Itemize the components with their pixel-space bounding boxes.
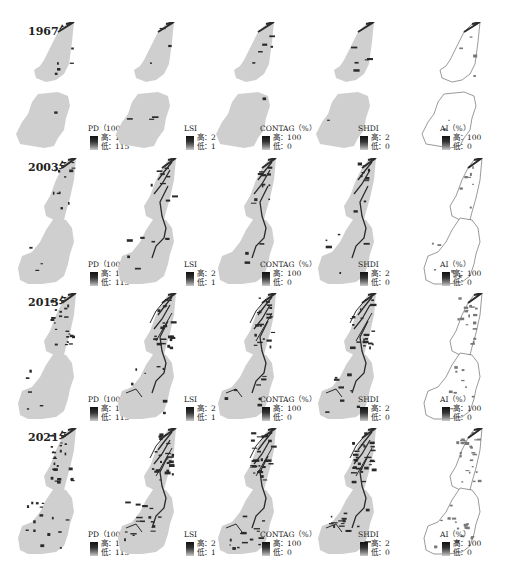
map-panel-pd: PD（100公顷） 高：1040 低：115	[6, 293, 106, 425]
color-ramp-icon	[360, 136, 368, 150]
color-ramp-icon	[360, 272, 368, 286]
year-row: 2021年 PD（100公顷） 高：1040 低：115	[0, 428, 513, 560]
color-ramp-icon	[90, 136, 98, 150]
map-panel-ai: AI（%） 高：100 低：0	[412, 293, 512, 425]
legend-high-value: 高：2	[371, 269, 390, 278]
year-row: 1967年 PD（100公顷） 高：1040 低：115	[0, 22, 513, 154]
color-ramp-icon	[90, 407, 98, 421]
legend-low-value: 低：0	[371, 278, 390, 287]
year-row: 2003年 PD（100公顷） 高：1040 低：115	[0, 158, 513, 290]
map-panel-contag: CONTAG（%） 高：100 低：0	[206, 22, 306, 154]
color-ramp-icon	[360, 407, 368, 421]
color-ramp-icon	[90, 272, 98, 286]
color-ramp-icon	[262, 407, 270, 421]
color-ramp-icon	[186, 407, 194, 421]
map-panel-lsi: LSI 高：2 低：1	[106, 158, 206, 290]
legend-ai: AI（%） 高：100 低：0	[440, 260, 481, 287]
map-panel-pd: PD（100公顷） 高：1040 低：115	[6, 22, 106, 154]
legend-shdi: SHDI 高：2 低：0	[358, 124, 390, 151]
legend-shdi: SHDI 高：2 低：0	[358, 260, 390, 287]
color-ramp-icon	[262, 136, 270, 150]
color-ramp-icon	[186, 272, 194, 286]
legend-shdi: SHDI 高：2 低：0	[358, 530, 390, 557]
map-panel-ai: AI（%） 高：100 低：0	[412, 428, 512, 560]
map-panel-lsi: LSI 高：2 低：1	[106, 293, 206, 425]
color-ramp-icon	[442, 136, 450, 150]
legend-low-value: 低：0	[453, 142, 481, 151]
legend-low-value: 低：0	[371, 548, 390, 557]
color-ramp-icon	[442, 542, 450, 556]
legend-low-value: 低：0	[453, 413, 481, 422]
color-ramp-icon	[442, 407, 450, 421]
legend-title: AI（%）	[440, 260, 481, 269]
legend-ai: AI（%） 高：100 低：0	[440, 530, 481, 557]
legend-high-value: 高：100	[453, 539, 481, 548]
color-ramp-icon	[186, 542, 194, 556]
map-panel-contag: CONTAG（%） 高：100 低：0	[206, 428, 306, 560]
color-ramp-icon	[262, 272, 270, 286]
map-panel-pd: PD（100公顷） 高：1040 低：115	[6, 158, 106, 290]
legend-high-value: 高：100	[453, 133, 481, 142]
region-map	[306, 293, 406, 425]
map-panel-shdi: SHDI 高：2 低：0	[306, 293, 406, 425]
legend-title: SHDI	[358, 395, 390, 404]
color-ramp-icon	[186, 136, 194, 150]
legend-high-value: 高：100	[453, 269, 481, 278]
legend-ai: AI（%） 高：100 低：0	[440, 124, 481, 151]
legend-high-value: 高：2	[371, 539, 390, 548]
legend-low-value: 低：0	[453, 278, 481, 287]
region-map	[306, 158, 406, 290]
map-panel-shdi: SHDI 高：2 低：0	[306, 428, 406, 560]
year-row: 2013年 PD（100公顷） 高：1040 低：115	[0, 293, 513, 425]
legend-low-value: 低：0	[371, 142, 390, 151]
legend-shdi: SHDI 高：2 低：0	[358, 395, 390, 422]
map-panel-contag: CONTAG（%） 高：100 低：0	[206, 158, 306, 290]
legend-title: SHDI	[358, 124, 390, 133]
map-panel-lsi: LSI 高：2 低：1	[106, 22, 206, 154]
map-panel-shdi: SHDI 高：2 低：0	[306, 158, 406, 290]
color-ramp-icon	[442, 272, 450, 286]
legend-low-value: 低：0	[371, 413, 390, 422]
map-panel-ai: AI（%） 高：100 低：0	[412, 22, 512, 154]
region-map	[306, 428, 406, 560]
map-panel-shdi: SHDI 高：2 低：0	[306, 22, 406, 154]
legend-ai: AI（%） 高：100 低：0	[440, 395, 481, 422]
color-ramp-icon	[90, 542, 98, 556]
legend-title: SHDI	[358, 260, 390, 269]
color-ramp-icon	[262, 542, 270, 556]
map-panel-contag: CONTAG（%） 高：100 低：0	[206, 293, 306, 425]
legend-title: AI（%）	[440, 395, 481, 404]
legend-title: AI（%）	[440, 124, 481, 133]
legend-title: SHDI	[358, 530, 390, 539]
map-panel-lsi: LSI 高：2 低：1	[106, 428, 206, 560]
region-map	[306, 22, 406, 154]
legend-high-value: 高：2	[371, 404, 390, 413]
color-ramp-icon	[360, 542, 368, 556]
legend-title: AI（%）	[440, 530, 481, 539]
map-panel-ai: AI（%） 高：100 低：0	[412, 158, 512, 290]
map-panel-pd: PD（100公顷） 高：1040 低：115	[6, 428, 106, 560]
legend-high-value: 高：2	[371, 133, 390, 142]
legend-high-value: 高：100	[453, 404, 481, 413]
legend-low-value: 低：0	[453, 548, 481, 557]
